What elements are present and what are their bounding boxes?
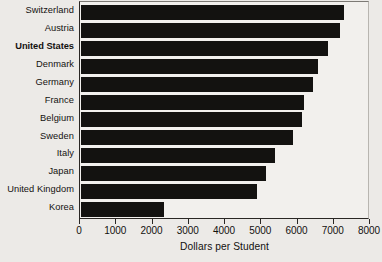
x-tick-label: 8000 bbox=[349, 225, 382, 237]
category-label: United States bbox=[0, 41, 74, 51]
x-tick-mark bbox=[188, 219, 189, 224]
bar bbox=[81, 41, 328, 56]
x-tick-label: 2000 bbox=[132, 225, 172, 237]
x-tick-mark bbox=[152, 219, 153, 224]
bar bbox=[81, 59, 318, 74]
category-axis-labels: SwitzerlandAustriaUnited StatesDenmarkGe… bbox=[0, 0, 74, 219]
bar bbox=[81, 166, 266, 181]
bar bbox=[81, 95, 304, 110]
plot-area bbox=[79, 1, 369, 219]
category-label: Japan bbox=[0, 166, 74, 176]
bar-chart: SwitzerlandAustriaUnited StatesDenmarkGe… bbox=[0, 0, 382, 262]
category-label: Germany bbox=[0, 77, 74, 87]
bar bbox=[81, 184, 257, 199]
bar bbox=[81, 130, 293, 145]
x-tick-mark bbox=[224, 219, 225, 224]
x-tick-mark bbox=[79, 219, 80, 224]
category-label: Belgium bbox=[0, 113, 74, 123]
category-label: Switzerland bbox=[0, 5, 74, 15]
category-label: Denmark bbox=[0, 59, 74, 69]
category-label: Sweden bbox=[0, 131, 74, 141]
bar bbox=[81, 202, 164, 217]
bar bbox=[81, 148, 275, 163]
x-axis-title: Dollars per Student bbox=[79, 241, 370, 252]
x-tick-label: 5000 bbox=[240, 225, 280, 237]
x-tick-mark bbox=[115, 219, 116, 224]
x-tick-label: 7000 bbox=[313, 225, 353, 237]
x-tick-label: 0 bbox=[59, 225, 99, 237]
plot-frame bbox=[79, 1, 369, 219]
x-tick-mark bbox=[369, 219, 370, 224]
x-tick-label: 4000 bbox=[204, 225, 244, 237]
category-label: Austria bbox=[0, 23, 74, 33]
x-tick-label: 6000 bbox=[277, 225, 317, 237]
x-tick-label: 1000 bbox=[95, 225, 135, 237]
bar bbox=[81, 112, 302, 127]
bar bbox=[81, 5, 344, 20]
x-tick-mark bbox=[260, 219, 261, 224]
x-tick-mark bbox=[297, 219, 298, 224]
x-tick-label: 3000 bbox=[168, 225, 208, 237]
category-label: Korea bbox=[0, 202, 74, 212]
category-label: United Kingdom bbox=[0, 184, 74, 194]
bar bbox=[81, 23, 340, 38]
category-label: France bbox=[0, 95, 74, 105]
x-tick-mark bbox=[333, 219, 334, 224]
category-label: Italy bbox=[0, 148, 74, 158]
bar bbox=[81, 77, 313, 92]
x-axis: Dollars per Student 01000200030004000500… bbox=[79, 219, 370, 262]
